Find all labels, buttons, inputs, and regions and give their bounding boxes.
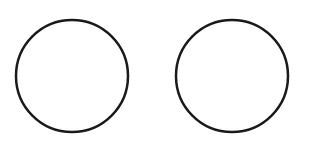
diagram-canvas (0, 0, 310, 145)
left-circle (16, 20, 128, 132)
right-circle (176, 20, 288, 132)
